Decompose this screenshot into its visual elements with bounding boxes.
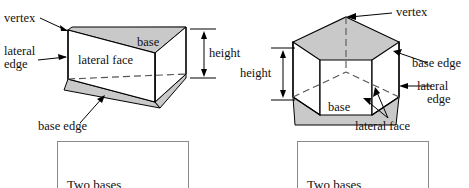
prism-diagram-figure: vertex lateral edge base lateral face he… — [0, 0, 469, 188]
label-base-edge-right: base edge — [412, 57, 461, 71]
label-vertex-left: vertex — [4, 12, 35, 26]
caption-right-line1: Two bases — [307, 177, 419, 188]
label-lateral-face-right: lateral face — [355, 120, 410, 134]
caption-left-line1: Two bases — [67, 177, 179, 188]
lateral-edge-arrowhead-right — [399, 83, 408, 89]
label-base-right: base — [328, 100, 350, 115]
label-height-left: height — [209, 47, 240, 61]
caption-box-left: Two bases Three lateral faces — [57, 141, 189, 188]
caption-box-right: Two bases Five lateral faces — [297, 141, 429, 188]
label-base-edge-left: base edge — [38, 120, 87, 134]
label-lateral-edge-left-line2: edge — [4, 58, 28, 72]
label-vertex-right: vertex — [396, 6, 427, 20]
height-arrow-top-right — [280, 50, 286, 58]
vertex-leader-line-right — [350, 13, 392, 17]
label-lateral-face-left: lateral face — [78, 53, 133, 68]
label-height-right: height — [240, 67, 271, 81]
height-arrow-bottom-right — [280, 90, 286, 98]
label-lateral-edge-right-line2: edge — [427, 93, 451, 107]
label-base-left: base — [137, 35, 159, 50]
